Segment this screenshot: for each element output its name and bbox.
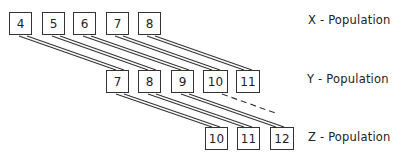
y-population-label: Y - Population xyxy=(307,72,389,86)
z-box-11: 11 xyxy=(237,127,260,150)
z-box-12: 12 xyxy=(270,127,294,150)
z-box-10: 10 xyxy=(205,127,228,150)
z-population-label: Z - Population xyxy=(308,130,391,144)
x-box-8: 8 xyxy=(138,12,161,35)
y-box-7: 7 xyxy=(106,70,129,93)
y-box-9: 9 xyxy=(171,70,194,93)
x-box-7: 7 xyxy=(106,12,129,35)
x-box-4: 4 xyxy=(9,12,32,35)
x-box-5: 5 xyxy=(42,12,65,35)
x-population-label: X - Population xyxy=(308,13,391,27)
y-box-8: 8 xyxy=(138,70,161,93)
x-box-6: 6 xyxy=(73,12,96,35)
y-box-10: 10 xyxy=(203,70,228,93)
y-box-11: 11 xyxy=(236,70,260,93)
